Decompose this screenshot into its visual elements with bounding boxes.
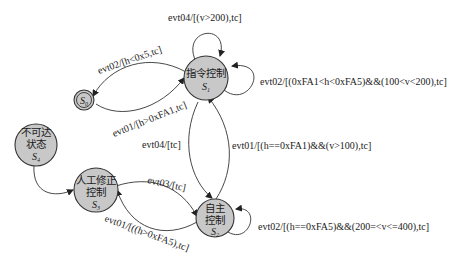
state-s0: S0 [74,90,94,110]
label-s1-self-top: evt04/[(v>200),tc] [168,12,242,24]
label-s2-s1: evt01/[(h==0xFA1)&&(v>100),tc] [232,140,371,152]
edge-s4-s3 [34,165,73,194]
svg-text:不可达: 不可达 [21,126,52,138]
svg-text:控制: 控制 [205,214,225,226]
state-s2: 自主 控制 S2 [196,199,234,238]
label-s1-s2: evt04/[tc] [142,139,181,150]
label-s2-s3: evt01/[((h>0xFA5),tc] [103,213,191,255]
edge-s1-self-right [224,65,254,94]
state-diagram: S0 指令控制 S1 不可达 状态 S4 人工修正 控制 S3 自主 控制 S2… [0,0,465,272]
label-s0-s1: evt01/[h>0xFA1,tc] [111,99,188,139]
label-s1-s0: evt02/[h<0x5,tc] [96,44,163,76]
svg-text:状态: 状态 [26,138,47,150]
svg-text:自主: 自主 [205,202,225,214]
label-s1-self-right: evt02/[(0xFA1<h<0xFA5)&&(100<v<200),tc] [260,76,447,88]
label-s2-self: evt02/[(h==0xFA5)&&(200=<v<=400),tc] [258,221,429,233]
state-s3: 人工修正 控制 S3 [74,168,118,212]
label-s3-s2: evt03/[tc] [147,174,187,193]
svg-text:控制: 控制 [86,186,106,198]
edge-s1-s2 [189,102,212,198]
state-s1: 指令控制 S1 [184,56,228,100]
state-s4: 不可达 状态 S4 [15,124,57,166]
svg-text:指令控制: 指令控制 [186,67,226,79]
svg-text:人工修正: 人工修正 [76,174,116,186]
edge-s2-s1 [208,97,229,199]
